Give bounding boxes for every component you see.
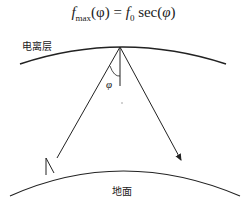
ground-arc xyxy=(10,171,240,196)
incident-ray xyxy=(57,47,120,158)
antenna-icon xyxy=(46,158,54,175)
diagram-canvas: fmax(φ) = f0 sec(φ) 电离层 地面 φ xyxy=(0,0,247,207)
diagram-svg xyxy=(0,0,247,207)
reflected-ray xyxy=(120,47,181,160)
ionosphere-arc xyxy=(20,47,226,64)
angle-arc xyxy=(110,66,120,76)
